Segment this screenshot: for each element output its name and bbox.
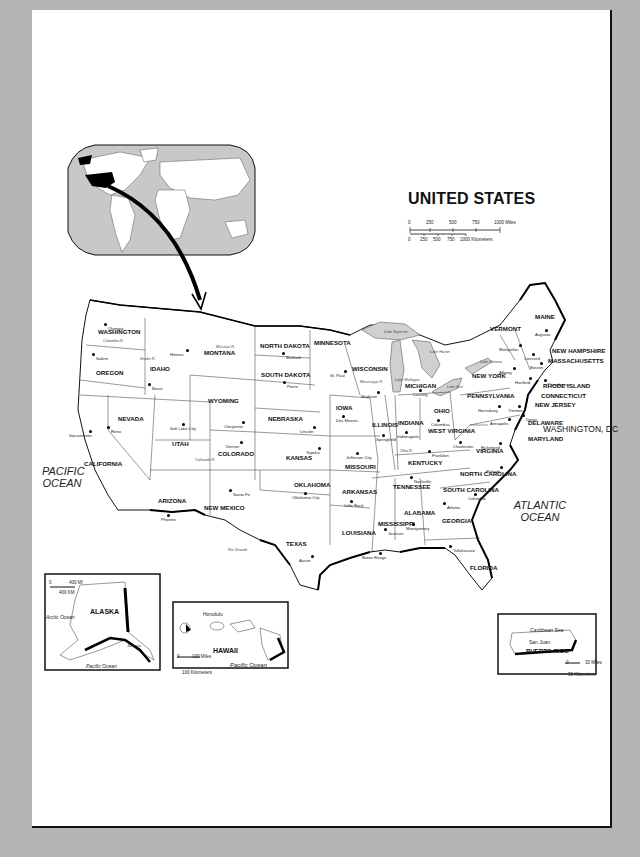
state-label-new-jersey: NEW JERSEY	[535, 402, 576, 408]
state-label-arizona: ARIZONA	[158, 498, 186, 504]
capital-label-boston: Boston	[530, 366, 543, 370]
scale-km-1000: 1000 Kilometers	[460, 237, 493, 242]
capital-dot-icon	[377, 391, 380, 394]
state-label-massachusetts: MASSACHUSETTS	[548, 358, 604, 364]
alaska-scale-km: 400 KM	[59, 590, 75, 595]
san-juan-label: San Juan	[529, 640, 550, 645]
puerto-rico-label: PUERTO RICO	[526, 648, 569, 654]
state-label-oregon: OREGON	[96, 370, 124, 376]
scale-miles-0: 0	[408, 220, 411, 225]
state-label-iowa: IOWA	[336, 405, 353, 411]
river-label-snake-r: Snake R.	[140, 357, 156, 361]
scale-miles-500: 500	[449, 220, 457, 225]
capital-dot-icon	[513, 367, 516, 370]
state-label-new-hampshire: NEW HAMPSHIRE	[552, 348, 605, 354]
river-label-mississippi-r: Mississippi R.	[360, 380, 383, 384]
lake-label-lake-ontario: Lake Ontario	[480, 360, 502, 364]
world-locator-map	[68, 145, 255, 255]
alaska-map	[45, 574, 160, 670]
capital-label-jefferson-city: Jefferson City	[346, 456, 372, 460]
river-label-columbia-r: Columbia R.	[103, 339, 124, 343]
hawaii-scale-miles: 100 Miles	[192, 654, 211, 659]
capital-dot-icon	[148, 383, 151, 386]
state-label-alabama: ALABAMA	[404, 510, 435, 516]
capital-label-cheyenne: Cheyenne	[224, 425, 243, 429]
capital-dot-icon	[519, 344, 522, 347]
arctic-ocean-label: Arctic Ocean	[46, 615, 75, 621]
map-page: UNITED STATES 0 250 500 750 1000 Miles 0…	[32, 10, 612, 828]
pr-scale-miles: 30 Miles	[585, 660, 602, 665]
alaska-pacific-ocean-label: Pacific Ocean	[86, 664, 117, 670]
map-title: UNITED STATES	[408, 190, 535, 208]
capital-label-topeka: Topeka	[306, 451, 320, 455]
alaska-scale-miles: 400 MI	[69, 580, 83, 585]
state-label-pennsylvania: PENNSYLVANIA	[467, 393, 515, 399]
state-label-wyoming: WYOMING	[208, 398, 239, 404]
capital-label-st-paul: St. Paul	[330, 374, 345, 378]
state-label-arkansas: ARKANSAS	[342, 489, 377, 495]
capital-label-albany: Albany	[499, 371, 512, 375]
scale-km-0: 0	[408, 237, 411, 242]
capital-label-frankfort: Frankfort	[432, 454, 449, 458]
capital-label-sacramento: Sacramento	[69, 434, 92, 438]
river-label-missouri-r: Missouri R.	[216, 345, 235, 349]
capital-label-little-rock: Little Rock	[344, 504, 364, 508]
state-label-florida: FLORIDA	[470, 565, 498, 571]
capital-dot-icon	[384, 528, 387, 531]
capital-label-annapolis: Annapolis	[490, 422, 508, 426]
scale-km-750: 750	[447, 237, 455, 242]
capital-dot-icon	[240, 441, 243, 444]
honolulu-label: Honolulu	[203, 612, 223, 617]
state-label-tennessee: TENNESSEE	[393, 484, 430, 490]
capital-label-columbus: Columbus	[431, 423, 450, 427]
capital-dot-icon	[104, 323, 107, 326]
river-label-rio-grande: Rio Grande	[228, 548, 247, 552]
state-label-illinois: ILLINOIS	[372, 422, 398, 428]
capital-dot-icon	[443, 502, 446, 505]
state-label-utah: UTAH	[172, 441, 189, 447]
capital-label-austin: Austin	[299, 559, 311, 563]
scale-bar	[410, 227, 500, 236]
capital-dot-icon	[313, 426, 316, 429]
capital-label-augusta: Augusta	[535, 333, 550, 337]
capital-label-concord: Concord	[524, 357, 540, 361]
capital-dot-icon	[410, 476, 413, 479]
capital-dot-icon	[522, 414, 525, 417]
state-label-west-virginia: WEST VIRGINIA	[428, 428, 475, 434]
hawaii-scale-zero: 0	[177, 654, 180, 659]
capital-label-bismark: Bismark	[286, 356, 301, 360]
state-label-missouri: MISSOURI	[345, 464, 376, 470]
juneau-label: Juneau	[127, 644, 141, 648]
capital-label-santa-fe: Santa Fe	[233, 493, 250, 497]
lake-label-lake-michigan: Lake Michigan	[395, 378, 419, 382]
capital-dot-icon	[500, 466, 503, 469]
capital-dot-icon	[186, 349, 189, 352]
state-label-montana: MONTANA	[204, 350, 235, 356]
state-label-indiana: INDIANA	[398, 420, 424, 426]
state-label-kentucky: KENTUCKY	[408, 460, 442, 466]
state-label-kansas: KANSAS	[286, 455, 312, 461]
scale-km-500: 500	[433, 237, 441, 242]
capital-label-des-moines: Des Moines	[336, 419, 358, 423]
lake-label-lake-superior: Lake Superior	[384, 330, 408, 334]
state-label-minnesota: MINNESOTA	[314, 340, 351, 346]
caribbean-sea-label: Caribbean Sea	[530, 628, 563, 634]
state-label-nevada: NEVADA	[118, 416, 144, 422]
lake-label-lake-huron: Lake Huron	[430, 350, 450, 354]
alaska-scale-zero: 0	[49, 580, 52, 585]
capital-label-trenton: Trenton	[508, 409, 522, 413]
state-label-new-mexico: NEW MEXICO	[204, 505, 245, 511]
scale-miles-1000: 1000 Miles	[494, 220, 516, 225]
capital-dot-icon	[229, 489, 232, 492]
capital-label-salt-lake-city: Salt Lake City	[170, 427, 196, 431]
capital-dot-icon	[311, 555, 314, 558]
capital-label-nashville: Nashville	[414, 480, 431, 484]
capital-label-olympia: Olympia	[108, 327, 123, 331]
state-label-north-dakota: NORTH DAKOTA	[260, 343, 310, 349]
capital-label-boise: Boise	[152, 387, 162, 391]
capital-label-oklahoma-city: Oklahoma City	[292, 496, 319, 500]
capital-label-atlanta: Atlanta	[447, 506, 460, 510]
state-label-vermont: VERMONT	[490, 326, 521, 332]
pacific-ocean-label: PACIFIC OCEAN	[42, 466, 82, 489]
capital-label-madison: Madison	[361, 395, 377, 399]
